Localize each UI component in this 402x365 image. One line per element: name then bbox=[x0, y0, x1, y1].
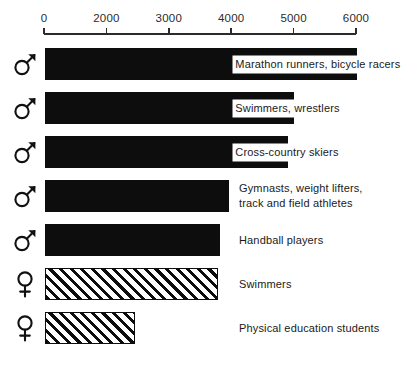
venus-symbol-icon bbox=[10, 262, 40, 306]
bar bbox=[45, 224, 220, 256]
bar-label: Swimmers bbox=[239, 262, 292, 306]
bar-row: Physical education students bbox=[0, 306, 402, 350]
axis-tick-label: 0 bbox=[41, 12, 48, 24]
bar-rows: Marathon runners, bicycle racersSwimmers… bbox=[0, 42, 402, 350]
mars-symbol-icon bbox=[10, 42, 40, 86]
bar-label: Swimmers, wrestlers bbox=[234, 101, 340, 116]
bar-label: Physical education students bbox=[239, 306, 379, 350]
x-axis: 020003000400050006000 bbox=[0, 0, 402, 42]
axis-tick-label: 6000 bbox=[343, 12, 369, 24]
bar-label: Marathon runners, bicycle racers bbox=[234, 57, 401, 72]
axis-tick bbox=[106, 28, 108, 34]
bar-row: Gymnasts, weight lifters, track and fiel… bbox=[0, 174, 402, 218]
bar-row: Handball players bbox=[0, 218, 402, 262]
axis-tick bbox=[43, 28, 45, 34]
bar bbox=[45, 180, 229, 212]
mars-symbol-icon bbox=[10, 130, 40, 174]
bar bbox=[45, 268, 218, 300]
mars-symbol-icon bbox=[10, 86, 40, 130]
axis-tick-label: 3000 bbox=[156, 12, 182, 24]
axis-tick-label: 2000 bbox=[93, 12, 119, 24]
axis-tick-label: 5000 bbox=[280, 12, 306, 24]
bar-row: Swimmers bbox=[0, 262, 402, 306]
axis-line bbox=[44, 33, 356, 35]
mars-symbol-icon bbox=[10, 174, 40, 218]
axis-tick bbox=[355, 28, 357, 34]
bar bbox=[45, 312, 135, 344]
axis-tick bbox=[230, 28, 232, 34]
mars-symbol-icon bbox=[10, 218, 40, 262]
bar-label: Gymnasts, weight lifters, track and fiel… bbox=[239, 174, 363, 218]
bar-label: Cross-country skiers bbox=[234, 145, 339, 160]
axis-tick-label: 4000 bbox=[218, 12, 244, 24]
venus-symbol-icon bbox=[10, 306, 40, 350]
bar-label: Handball players bbox=[239, 218, 323, 262]
bar-row: Swimmers, wrestlers bbox=[0, 86, 402, 130]
axis-tick bbox=[293, 28, 295, 34]
bar-row: Marathon runners, bicycle racers bbox=[0, 42, 402, 86]
horizontal-bar-chart: 020003000400050006000 Marathon runners, … bbox=[0, 0, 402, 365]
axis-tick bbox=[168, 28, 170, 34]
bar-row: Cross-country skiers bbox=[0, 130, 402, 174]
